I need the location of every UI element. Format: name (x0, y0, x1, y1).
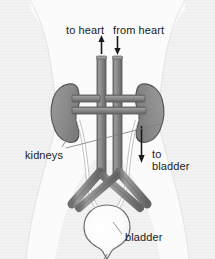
diagram-canvas (0, 0, 215, 259)
label-to-bladder-line2: bladder (152, 160, 189, 172)
vena-cava-cap (113, 56, 123, 59)
label-from-heart: from heart (113, 24, 164, 36)
aorta-cap (97, 56, 107, 59)
label-to-bladder-line1: to (152, 148, 161, 160)
aorta-trunk (97, 57, 106, 176)
urinary-system-figure: to heart from heart kidneys to bladder b… (0, 0, 215, 259)
vena-cava-trunk (113, 57, 122, 176)
right-renal-upper-vessel (105, 95, 145, 102)
left-renal-upper-vessel (72, 95, 100, 102)
renal-lower-vessel (72, 107, 146, 114)
label-bladder: bladder (125, 231, 162, 243)
label-to-heart: to heart (66, 24, 104, 36)
label-to-bladder: to bladder (152, 148, 189, 172)
label-kidneys: kidneys (25, 149, 63, 161)
